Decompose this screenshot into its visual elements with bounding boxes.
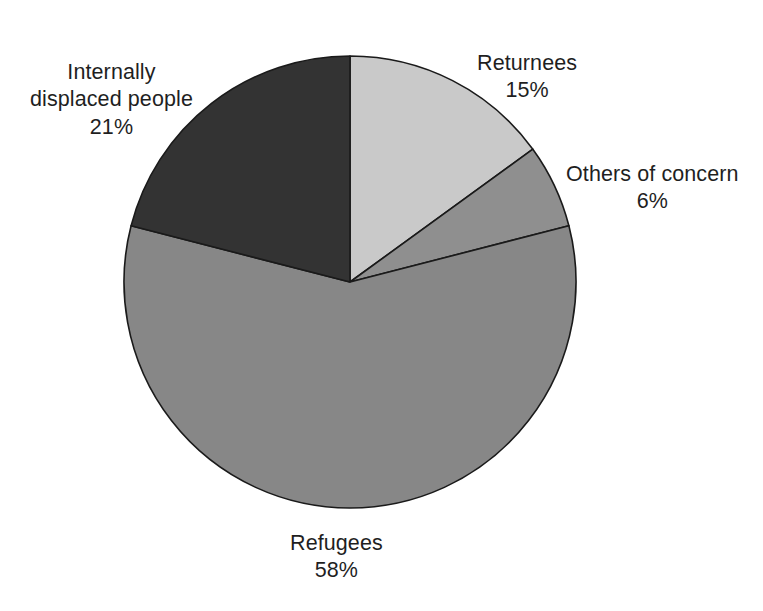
pie-label-others-of-concern-name: Others of concern bbox=[566, 161, 739, 188]
pie-label-returnees-value: 15% bbox=[477, 77, 577, 104]
pie-label-internally-displaced-people-name-line1: Internally bbox=[30, 59, 193, 86]
pie-label-returnees-name: Returnees bbox=[477, 50, 577, 77]
pie-label-internally-displaced-people-name-line2: displaced people bbox=[30, 86, 193, 113]
pie-label-others-of-concern-value: 6% bbox=[566, 188, 739, 215]
pie-label-internally-displaced-people-value: 21% bbox=[30, 114, 193, 141]
pie-label-refugees-name: Refugees bbox=[290, 530, 383, 557]
pie-label-others-of-concern: Others of concern 6% bbox=[566, 161, 739, 216]
pie-label-refugees-value: 58% bbox=[290, 557, 383, 584]
pie-label-returnees: Returnees 15% bbox=[477, 50, 577, 105]
pie-label-refugees: Refugees 58% bbox=[290, 530, 383, 585]
pie-label-internally-displaced-people: Internally displaced people 21% bbox=[30, 59, 193, 141]
pie-chart: Returnees 15% Others of concern 6% Inter… bbox=[0, 0, 763, 611]
